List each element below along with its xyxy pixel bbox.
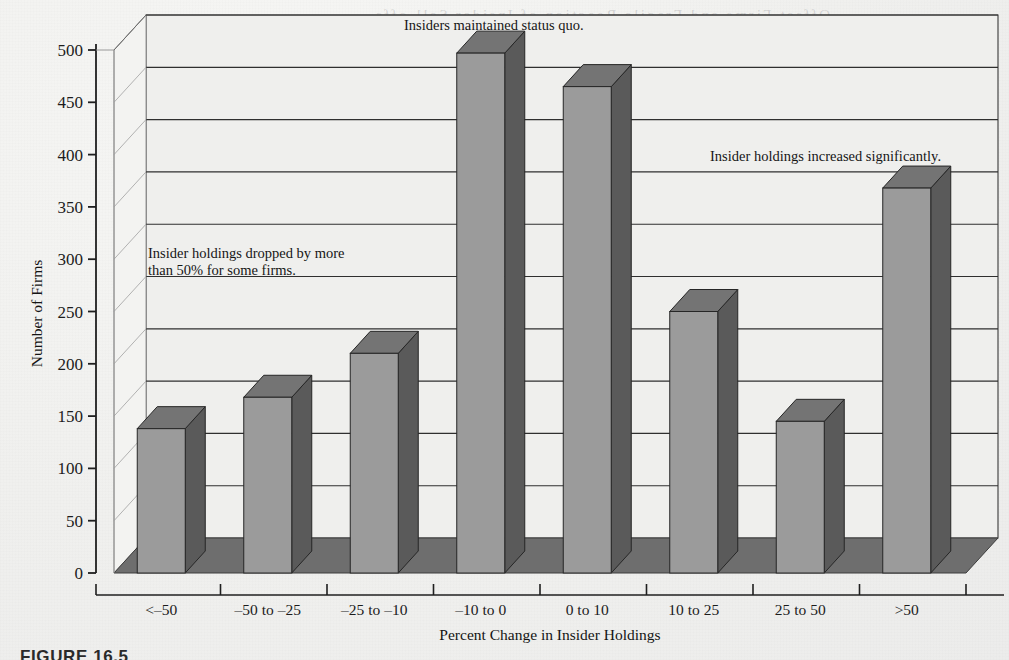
figure-page: Offset Firms and Fragile Reaction of Ins… (0, 0, 1009, 660)
bar-group (670, 290, 738, 574)
bar-front-face (883, 188, 931, 573)
x-tick-label: 25 to 50 (775, 601, 826, 618)
bar-front-face (776, 421, 824, 573)
y-tick-label: 150 (58, 407, 84, 426)
bar-side-face (398, 331, 418, 573)
bar-side-face (505, 31, 525, 573)
bar-front-face (137, 429, 185, 573)
figure-caption: FIGURE 16.5 (20, 647, 129, 660)
bar-chart-figure: 050100150200250300350400450500Number of … (0, 0, 1009, 660)
bar-front-face (563, 87, 611, 573)
bar-side-face (292, 375, 312, 573)
bar-side-face (185, 407, 205, 573)
x-tick-label: 0 to 10 (566, 601, 609, 618)
y-tick-label: 300 (58, 250, 84, 269)
y-tick-label: 100 (58, 459, 84, 478)
chart-annotation: Insiders maintained status quo. (404, 17, 584, 33)
bar-side-face (824, 399, 844, 573)
annotation-line: Insider holdings increased significantly… (710, 148, 941, 164)
y-tick-label: 250 (58, 303, 84, 322)
bar-front-face (350, 353, 398, 573)
bar-group (350, 331, 418, 573)
bar-group (137, 407, 205, 573)
bar-front-face (457, 53, 505, 573)
y-tick-label: 450 (58, 93, 84, 112)
annotation-line: than 50% for some firms. (148, 262, 296, 278)
bar-side-face (931, 166, 951, 573)
y-tick-label: 500 (58, 41, 84, 60)
x-tick-label: –50 to –25 (234, 601, 302, 618)
y-tick-label: 0 (75, 564, 84, 583)
bar-group (244, 375, 312, 573)
y-tick-label: 400 (58, 146, 84, 165)
bar-group (776, 399, 844, 573)
y-axis-title: Number of Firms (28, 260, 45, 368)
annotation-line: Insider holdings dropped by more (148, 245, 345, 261)
annotation-line: Insiders maintained status quo. (404, 17, 584, 33)
x-tick-label: 10 to 25 (668, 601, 719, 618)
chart-canvas: 050100150200250300350400450500Number of … (0, 0, 1009, 660)
bar-side-face (718, 290, 738, 574)
x-tick-label: >50 (895, 601, 919, 618)
bar-front-face (244, 397, 292, 573)
chart-annotation: Insider holdings increased significantly… (710, 148, 941, 164)
bar-group (563, 65, 631, 573)
y-tick-label: 200 (58, 355, 84, 374)
x-tick-label: –25 to –10 (340, 601, 408, 618)
bar-front-face (670, 312, 718, 574)
bar-group (457, 31, 525, 573)
x-tick-label: –10 to 0 (454, 601, 506, 618)
y-tick-label: 50 (66, 512, 83, 531)
x-tick-label: <–50 (145, 601, 177, 618)
bar-group (883, 166, 951, 573)
y-tick-label: 350 (58, 198, 84, 217)
bar-side-face (611, 65, 631, 573)
x-axis-title: Percent Change in Insider Holdings (439, 626, 660, 643)
